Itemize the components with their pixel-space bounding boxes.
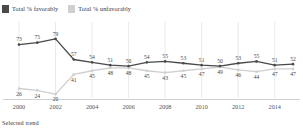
data-point xyxy=(127,65,130,68)
data-point xyxy=(109,67,112,70)
data-point xyxy=(164,60,167,63)
data-point xyxy=(273,68,276,71)
data-point xyxy=(146,69,149,72)
data-point xyxy=(182,62,185,65)
data-point xyxy=(182,69,185,72)
data-point-label: 54 xyxy=(89,54,95,60)
data-point-label: 51 xyxy=(272,57,278,63)
data-point-label: 43 xyxy=(162,75,168,81)
data-point xyxy=(36,89,39,92)
data-point-label: 73 xyxy=(16,36,22,42)
data-point-label: 46 xyxy=(235,72,241,78)
data-point-label: 50 xyxy=(126,58,132,64)
data-point xyxy=(237,62,240,65)
line-chart-svg: 7375795754515054555351505355515226242041… xyxy=(0,18,303,114)
data-point-label: 51 xyxy=(199,57,205,63)
data-point-label: 47 xyxy=(199,71,205,77)
data-point xyxy=(237,68,240,71)
data-point xyxy=(109,64,112,67)
chart-legend: Total % favorably Total % unfavorably xyxy=(2,3,131,15)
data-point-label: 45 xyxy=(181,73,187,79)
data-point-label: 75 xyxy=(34,34,40,40)
series-line xyxy=(19,39,293,66)
x-tick-label: 2008 xyxy=(159,103,171,110)
x-tick-label: 2000 xyxy=(13,103,25,110)
data-point-label: 51 xyxy=(108,57,114,63)
data-point-label: 53 xyxy=(235,55,241,61)
x-tick-label: 2004 xyxy=(86,103,98,110)
data-point xyxy=(18,43,21,46)
x-tick-label: 2002 xyxy=(49,103,61,110)
data-point-label: 48 xyxy=(126,70,132,76)
data-point xyxy=(72,58,75,61)
legend-item-label: Total % unfavorably xyxy=(78,5,131,13)
data-point-label: 45 xyxy=(89,73,95,79)
data-point-label: 50 xyxy=(217,58,223,64)
data-point-label: 41 xyxy=(71,77,77,83)
data-point-label: 53 xyxy=(181,55,187,61)
chart-x-tick-labels: 20002002200420062008201020122014 xyxy=(13,103,281,110)
chart-figure: Total % favorably Total % unfavorably 73… xyxy=(0,0,303,134)
data-point xyxy=(255,70,258,73)
chart-footer-caption: Selected trend xyxy=(2,119,39,126)
data-point xyxy=(219,65,222,68)
x-tick-label: 2010 xyxy=(195,103,207,110)
data-point xyxy=(54,38,57,41)
data-point-label: 55 xyxy=(162,53,168,59)
data-point xyxy=(146,61,149,64)
data-point xyxy=(91,61,94,64)
data-point-label: 49 xyxy=(217,69,223,75)
data-point-label: 45 xyxy=(144,73,150,79)
data-point-label: 55 xyxy=(254,53,260,59)
chart-series-layer xyxy=(18,38,295,96)
data-point-label: 52 xyxy=(290,56,296,62)
data-point-label: 26 xyxy=(16,91,22,97)
chart-plot-area: 7375795754515054555351505355515226242041… xyxy=(0,18,303,114)
data-point xyxy=(200,68,203,71)
data-point-label: 47 xyxy=(272,71,278,77)
data-point xyxy=(273,64,276,67)
data-point xyxy=(200,64,203,67)
data-point xyxy=(292,63,295,66)
series-line xyxy=(19,67,293,94)
data-point-label: 57 xyxy=(71,51,77,57)
data-point-label: 54 xyxy=(144,54,150,60)
data-point xyxy=(292,68,295,71)
x-tick-label: 2006 xyxy=(122,103,134,110)
legend-swatch-icon xyxy=(68,5,75,13)
data-point-label: 24 xyxy=(34,93,40,99)
data-point-label: 48 xyxy=(108,70,114,76)
data-point xyxy=(54,93,57,96)
data-point xyxy=(255,60,258,63)
data-point xyxy=(72,73,75,76)
data-point-label: 47 xyxy=(290,71,296,77)
data-point xyxy=(18,87,21,90)
data-point-label: 20 xyxy=(53,96,59,102)
legend-item-favorably: Total % favorably xyxy=(2,5,58,13)
data-point xyxy=(36,41,39,44)
legend-swatch-icon xyxy=(2,5,9,13)
legend-item-label: Total % favorably xyxy=(12,5,58,13)
x-tick-label: 2014 xyxy=(269,103,281,110)
x-tick-label: 2012 xyxy=(232,103,244,110)
data-point-label: 44 xyxy=(254,74,260,80)
data-point xyxy=(164,71,167,74)
legend-item-unfavorably: Total % unfavorably xyxy=(68,5,131,13)
data-point xyxy=(91,69,94,72)
data-point-label: 79 xyxy=(53,31,59,37)
